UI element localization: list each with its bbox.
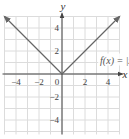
x-tick-label: 0 [55,77,60,87]
x-tick-label: −2 [34,77,44,87]
x-axis-label: x [122,68,128,80]
y-axis-label: y [60,0,66,12]
y-tick-label: 2 [55,46,60,56]
y-tick-label: 4 [55,23,60,33]
y-tick-label: −2 [49,92,59,102]
x-tick-label: 4 [106,77,111,87]
x-tick-label: 2 [83,77,88,87]
curve-left-ray [5,17,63,75]
function-label: f(x) = |x| [100,55,129,67]
y-tick-label: −4 [49,115,59,125]
abs-value-graph: xy−4−202442−2−4f(x) = |x| [0,0,129,139]
x-tick-label: −4 [11,77,21,87]
